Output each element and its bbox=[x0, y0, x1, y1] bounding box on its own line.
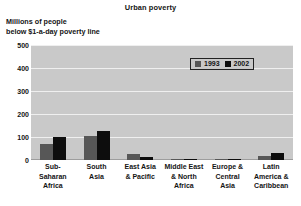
y-axis-tick-label: 500 bbox=[3, 42, 29, 49]
legend-swatch-1993-icon bbox=[195, 61, 201, 67]
x-axis-label-line: Europe & bbox=[206, 162, 250, 172]
gridline bbox=[31, 91, 293, 92]
gridline bbox=[31, 114, 293, 115]
x-axis-label: Middle East& NorthAfrica bbox=[162, 162, 206, 206]
x-axis-label-line: Asia bbox=[75, 172, 119, 182]
legend-swatch-2002-icon bbox=[225, 61, 231, 67]
x-axis-label-line: Middle East bbox=[162, 162, 206, 172]
legend-entry-1993: 1993 bbox=[195, 60, 220, 67]
y-axis-tick-label: 400 bbox=[3, 65, 29, 72]
x-axis-label-line: Latin bbox=[249, 162, 293, 172]
x-axis-label: Europe &CentralAsia bbox=[206, 162, 250, 206]
gridline bbox=[31, 137, 293, 138]
axis-baseline bbox=[31, 159, 293, 160]
y-axis-caption: Millions of people below $1-a-day povert… bbox=[6, 17, 100, 36]
x-axis-label: Sub-SaharanAfrica bbox=[31, 162, 75, 206]
x-axis-label-line: Africa bbox=[31, 181, 75, 191]
x-axis-label-line: Saharan bbox=[31, 172, 75, 182]
urban-poverty-chart: Urban poverty Millions of people below $… bbox=[0, 0, 301, 206]
legend-label-2002: 2002 bbox=[234, 60, 250, 67]
x-axis-label-line: Central bbox=[206, 172, 250, 182]
chart-legend: 1993 2002 bbox=[190, 58, 254, 70]
legend-label-1993: 1993 bbox=[204, 60, 220, 67]
y-axis-tick-label: 200 bbox=[3, 111, 29, 118]
chart-title: Urban poverty bbox=[0, 3, 301, 12]
x-axis-category-labels: Sub-SaharanAfricaSouthAsiaEast Asia& Pac… bbox=[31, 162, 293, 206]
y-axis-caption-line-1: Millions of people bbox=[6, 17, 100, 27]
gridline bbox=[31, 45, 293, 46]
x-axis-label-line: Caribbean bbox=[249, 181, 293, 191]
x-axis-label-line: Africa bbox=[162, 181, 206, 191]
y-axis-caption-line-2: below $1-a-day poverty line bbox=[6, 27, 100, 37]
y-axis-tick-labels: 5004003002001000 bbox=[0, 45, 29, 160]
y-axis-tick-label: 300 bbox=[3, 88, 29, 95]
x-axis-label-line: America & bbox=[249, 172, 293, 182]
x-axis-label: LatinAmerica &Caribbean bbox=[249, 162, 293, 206]
legend-entry-2002: 2002 bbox=[225, 60, 250, 67]
x-axis-label-line: East Asia bbox=[118, 162, 162, 172]
x-axis-label: SouthAsia bbox=[75, 162, 119, 206]
y-axis-tick-label: 0 bbox=[3, 157, 29, 164]
x-axis-label: East Asia& Pacific bbox=[118, 162, 162, 206]
y-axis-tick-label: 100 bbox=[3, 134, 29, 141]
x-axis-label-line: Asia bbox=[206, 181, 250, 191]
x-axis-label-line: & Pacific bbox=[118, 172, 162, 182]
x-axis-label-line: Sub- bbox=[31, 162, 75, 172]
x-axis-label-line: South bbox=[75, 162, 119, 172]
x-axis-label-line: & North bbox=[162, 172, 206, 182]
